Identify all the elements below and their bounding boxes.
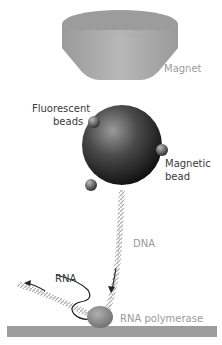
magnet-shape — [62, 10, 178, 80]
rna-label: RNA — [55, 273, 76, 285]
magnetic-bead-label: Magnetic — [165, 158, 211, 170]
magnet-label: Magnet — [164, 63, 202, 75]
dna-label: DNA — [133, 238, 155, 250]
fluorescent-bead — [88, 116, 100, 128]
fluorescent-beads-label: Fluorescent — [32, 103, 90, 115]
fluorescent-bead — [85, 179, 97, 191]
rna-polymerase — [87, 306, 113, 328]
dna-strand — [18, 190, 122, 318]
fluorescent-beads-label-line2: beads — [53, 116, 83, 128]
surface — [7, 326, 217, 337]
magnetic-bead-label-line2: bead — [165, 171, 190, 183]
fluorescent-bead — [156, 144, 168, 156]
rna-polymerase-label: RNA polymerase — [120, 313, 203, 325]
